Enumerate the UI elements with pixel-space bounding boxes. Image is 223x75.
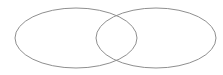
right-ellipse — [96, 8, 216, 68]
left-ellipse — [15, 8, 137, 68]
venn-diagram — [0, 0, 223, 75]
